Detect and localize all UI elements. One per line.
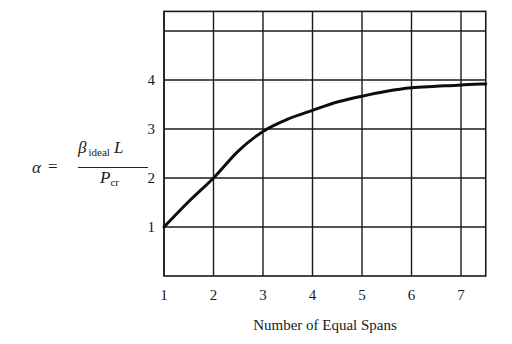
grid-lines	[164, 11, 486, 276]
beta-symbol: β	[78, 138, 86, 157]
alpha-curve	[164, 84, 486, 227]
y-tick-label: 4	[148, 72, 156, 88]
x-tick-label: 7	[457, 287, 465, 303]
p-subscript: cr	[110, 176, 119, 188]
x-tick-label: 5	[358, 287, 366, 303]
y-tick-label: 1	[148, 219, 156, 235]
x-tick-label: 2	[210, 287, 218, 303]
x-tick-label: 1	[160, 287, 168, 303]
alpha-symbol: α	[32, 158, 41, 178]
beta-subscript: ideal	[88, 146, 109, 158]
y-axis-label: α = βideal L Pcr	[28, 138, 158, 198]
plot-frame	[164, 11, 486, 276]
x-tick-label: 6	[408, 287, 416, 303]
x-axis-label: Number of Equal Spans	[253, 317, 397, 333]
y-tick-label: 3	[148, 121, 156, 137]
fraction-numerator: βideal L	[78, 138, 124, 158]
x-tick-label: 3	[259, 287, 267, 303]
fraction-denominator: Pcr	[100, 168, 119, 188]
p-symbol: P	[100, 168, 110, 187]
length-symbol: L	[114, 138, 123, 157]
x-tick-labels: 1234567	[160, 287, 465, 303]
x-tick-label: 4	[309, 287, 317, 303]
equals-sign: =	[48, 157, 58, 177]
